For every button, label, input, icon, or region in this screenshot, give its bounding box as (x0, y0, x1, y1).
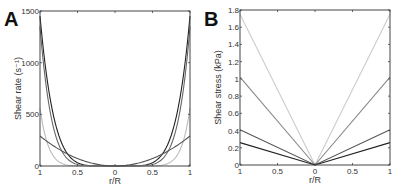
panel-label: B (204, 8, 218, 30)
series-line-4 (240, 143, 390, 165)
y-tick-label: 0.4 (228, 127, 240, 136)
y-tick-label: 0.6 (228, 109, 240, 118)
y-tick-label: 0.8 (228, 92, 240, 101)
x-tick-label: 1 (188, 168, 193, 177)
y-tick-label: 1500 (21, 7, 39, 16)
x-tick-label: 1 (38, 168, 43, 177)
x-axis-label: r/R (309, 175, 321, 185)
series-line-2 (240, 77, 390, 165)
x-tick-label: 1 (388, 167, 393, 176)
series-line-3 (240, 130, 390, 165)
series-curve-1 (40, 16, 190, 166)
chart-panel-a: A05001000150010.500.51r/RShear rate (s⁻¹… (4, 7, 193, 186)
y-tick-label: 0.2 (228, 144, 240, 153)
y-tick-label: 1.8 (228, 6, 240, 15)
x-axis-label: r/R (109, 176, 121, 186)
axes-frame (40, 11, 190, 166)
y-axis-label: Shear stress (kPa) (213, 50, 223, 125)
figure: A05001000150010.500.51r/RShear rate (s⁻¹… (0, 0, 398, 188)
x-tick-label: 0.5 (72, 168, 84, 177)
y-tick-label: 1 (235, 75, 240, 84)
y-tick-label: 500 (26, 110, 40, 119)
chart-panel-b: B00.20.40.60.811.21.41.61.810.500.51r/RS… (204, 6, 393, 185)
y-axis-label: Shear rate (s⁻¹) (13, 57, 23, 120)
panel-label: A (4, 8, 18, 30)
x-tick-label: 1 (238, 167, 243, 176)
y-tick-label: 1.4 (228, 40, 240, 49)
y-tick-label: 1000 (21, 59, 39, 68)
series-curve-4 (40, 136, 190, 166)
axes-frame (240, 10, 390, 165)
series-line-1 (240, 14, 390, 165)
y-tick-label: 1.2 (228, 58, 240, 67)
y-tick-label: 1.6 (228, 23, 240, 32)
x-tick-label: 0.5 (147, 168, 159, 177)
x-tick-label: 0.5 (272, 167, 284, 176)
x-tick-label: 0.5 (347, 167, 359, 176)
series-curve-3 (40, 108, 190, 166)
